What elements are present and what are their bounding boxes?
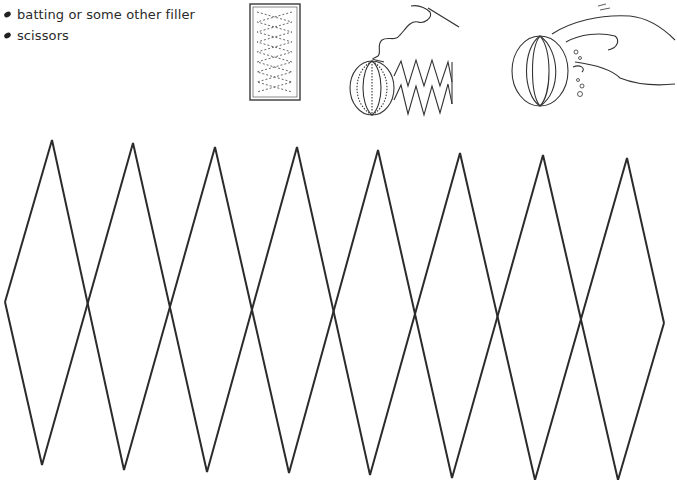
diamond-strip-pattern (5, 140, 664, 480)
hand-stuffing-ball-icon (512, 4, 675, 106)
pattern-line (5, 143, 664, 480)
illustration-canvas (0, 0, 677, 480)
needle-and-thread-icon (350, 6, 459, 115)
paper-strip-template-icon (250, 4, 300, 100)
pattern-line (5, 140, 664, 480)
